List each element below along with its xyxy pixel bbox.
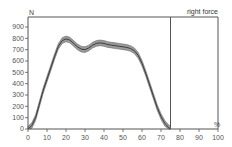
axes [28,17,218,129]
y-tick-label: 700 [12,46,24,53]
x-axis-label: % [214,121,220,128]
x-tick-label: 40 [100,134,108,141]
mean-force-line [28,39,171,129]
x-tick-label: 0 [26,134,30,141]
x-tick-label: 80 [176,134,184,141]
y-tick-label: 800 [12,35,24,42]
right-force-annotation: right force [187,8,218,16]
x-tick-label: 30 [81,134,89,141]
y-tick-label: 500 [12,69,24,76]
y-tick-label: 100 [12,114,24,121]
y-axis-label: N [29,9,34,16]
y-tick-label: 900 [12,23,24,30]
x-tick-label: 70 [157,134,165,141]
x-tick-label: 90 [195,134,203,141]
ticks: 0100200300400500600700800900010203040506… [12,23,224,141]
y-tick-label: 200 [12,103,24,110]
mean-line-layer [28,39,171,129]
y-tick-label: 600 [12,57,24,64]
y-tick-label: 300 [12,91,24,98]
x-tick-label: 60 [138,134,146,141]
y-tick-label: 400 [12,80,24,87]
x-tick-label: 50 [119,134,127,141]
x-tick-label: 100 [212,134,224,141]
x-tick-label: 10 [43,134,51,141]
chart: 0100200300400500600700800900010203040506… [0,0,232,147]
y-tick-label: 0 [20,125,24,132]
x-tick-label: 20 [62,134,70,141]
